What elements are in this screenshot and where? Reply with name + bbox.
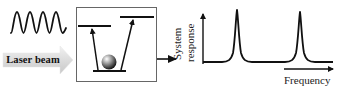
response-chart [203, 10, 333, 69]
y-axis-label-line1: System [171, 28, 183, 60]
sine-wave-icon [11, 12, 66, 33]
laser-beam-label: Laser beam [4, 52, 62, 68]
response-curve [203, 10, 333, 62]
laser-spectroscopy-diagram: Laser beam System response Frequency [0, 0, 342, 92]
sphere-icon [102, 55, 117, 70]
energy-level-box [77, 8, 157, 82]
y-axis-label: System response [170, 8, 200, 68]
y-axis-label-line2: response [184, 24, 196, 63]
x-axis-label: Frequency [284, 74, 330, 86]
